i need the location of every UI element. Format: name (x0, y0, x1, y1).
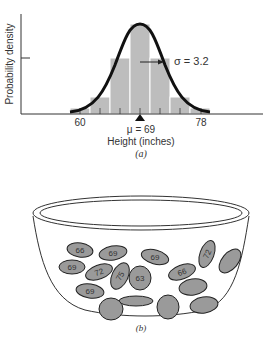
tick-60: 60 (74, 117, 86, 128)
caption-b: (b) (136, 323, 147, 333)
tick-78: 78 (195, 117, 207, 128)
bead-label: 66 (76, 246, 85, 255)
bead-label: 69 (151, 253, 160, 262)
mu-label: μ = 69 (127, 124, 156, 135)
histogram-bars (70, 24, 210, 114)
sigma-label: σ = 3.2 (174, 55, 209, 67)
bead-label: 63 (136, 274, 145, 283)
caption-a: (a) (135, 148, 147, 160)
beads (59, 238, 245, 320)
bar (130, 24, 150, 114)
x-axis-label: Height (inches) (107, 136, 174, 147)
bead-label: 69 (86, 287, 95, 296)
bead-label: 69 (68, 263, 77, 272)
figure: σ = 3.2 60 78 μ = 69 Height (inches) (a)… (0, 0, 274, 341)
bead-label: 69 (109, 249, 118, 258)
y-axis-label: Probability density (4, 23, 15, 104)
mean-marker-icon (135, 114, 145, 121)
